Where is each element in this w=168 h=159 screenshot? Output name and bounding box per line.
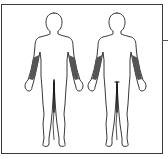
back-view-figure bbox=[88, 13, 146, 146]
back-body-outline bbox=[88, 13, 146, 146]
back-right-forearm-shade bbox=[132, 55, 142, 80]
back-leg-divide bbox=[116, 112, 117, 140]
back-left-forearm-shade bbox=[92, 55, 102, 80]
front-leg-divide bbox=[53, 112, 54, 140]
body-diagram bbox=[0, 0, 168, 159]
front-right-forearm-shade bbox=[69, 55, 79, 80]
front-left-forearm-shade bbox=[29, 55, 39, 80]
front-view-figure bbox=[25, 13, 83, 146]
